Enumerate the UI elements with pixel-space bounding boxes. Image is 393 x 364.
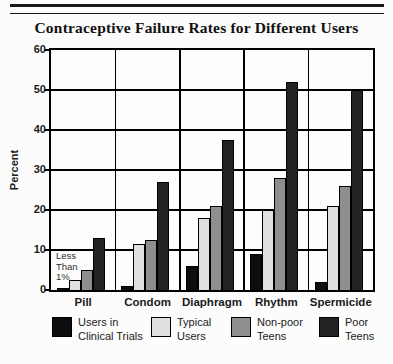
bar-condom-series-2 [145, 240, 157, 290]
annotation-line: 1% [56, 272, 78, 283]
y-tick-label: 30 [12, 163, 46, 175]
bar-spermicide-series-0 [315, 282, 327, 290]
legend-label-line: Teens [345, 330, 374, 344]
category-separator [243, 50, 245, 290]
legend-label-line: Poor [345, 316, 374, 330]
y-tick-label: 0 [12, 283, 46, 295]
grid-line-40 [51, 129, 373, 131]
bar-condom-series-1 [133, 244, 145, 290]
legend-label: Non-poorTeens [257, 316, 303, 343]
y-tick-label: 40 [12, 123, 46, 135]
x-category-label-condom: Condom [115, 296, 179, 308]
legend-label: TypicalUsers [177, 316, 211, 343]
bar-spermicide-series-2 [339, 186, 351, 290]
category-separator [115, 50, 117, 290]
legend-item: PoorTeens [319, 316, 374, 343]
legend-swatch [319, 317, 339, 337]
legend: Users inClinical TrialsTypicalUsersNon-p… [0, 316, 393, 356]
annotation-line: Less [56, 251, 78, 262]
legend-item: TypicalUsers [151, 316, 211, 343]
legend-item: Non-poorTeens [231, 316, 303, 343]
annotation-less-than-1pct: Less Than 1% [56, 251, 78, 283]
legend-label: Users inClinical Trials [78, 316, 143, 343]
legend-label-line: Users in [78, 316, 143, 330]
y-tick-label: 50 [12, 83, 46, 95]
legend-label-line: Non-poor [257, 316, 303, 330]
grid-line-50 [51, 89, 373, 91]
y-tick-mark [45, 49, 51, 51]
y-tick-label: 10 [12, 243, 46, 255]
legend-label-line: Users [177, 330, 211, 344]
chart: Percent Less Than 1% Users inClinical Tr… [0, 0, 393, 364]
bar-spermicide-series-3 [351, 90, 363, 290]
bar-pill-series-0 [57, 288, 69, 290]
category-separator [308, 50, 310, 290]
x-category-label-pill: Pill [51, 296, 115, 308]
bar-rhythm-series-3 [286, 82, 298, 290]
x-category-label-rhythm: Rhythm [244, 296, 308, 308]
y-tick-label: 60 [12, 43, 46, 55]
legend-label: PoorTeens [345, 316, 374, 343]
bar-pill-series-3 [93, 238, 105, 290]
bar-diaphragm-series-2 [210, 206, 222, 290]
bar-rhythm-series-1 [262, 210, 274, 290]
legend-item: Users inClinical Trials [52, 316, 143, 343]
x-category-label-spermicide: Spermicide [309, 296, 373, 308]
bar-diaphragm-series-1 [198, 218, 210, 290]
legend-label-line: Clinical Trials [78, 330, 143, 344]
y-tick-mark [45, 289, 51, 291]
plot-area [49, 48, 375, 292]
x-category-label-diaphragm: Diaphragm [180, 296, 244, 308]
legend-swatch [151, 317, 171, 337]
y-tick-label: 20 [12, 203, 46, 215]
bar-condom-series-0 [121, 286, 133, 290]
legend-label-line: Typical [177, 316, 211, 330]
bar-pill-series-2 [81, 270, 93, 290]
bar-diaphragm-series-0 [186, 266, 198, 290]
bar-spermicide-series-1 [327, 206, 339, 290]
bar-rhythm-series-2 [274, 178, 286, 290]
legend-swatch [231, 317, 251, 337]
legend-label-line: Teens [257, 330, 303, 344]
bar-rhythm-series-0 [250, 254, 262, 290]
bar-condom-series-3 [157, 182, 169, 290]
bar-diaphragm-series-3 [222, 140, 234, 290]
category-separator [179, 50, 181, 290]
figure: Contraceptive Failure Rates for Differen… [0, 0, 393, 364]
grid-line-30 [51, 169, 373, 171]
legend-swatch [52, 317, 72, 337]
